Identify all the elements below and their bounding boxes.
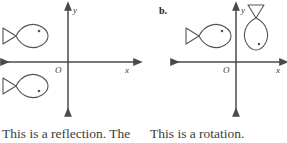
origin-label: O <box>223 65 230 75</box>
panel-reflection: y x O <box>0 0 143 118</box>
fish-eye-dot <box>38 90 41 93</box>
fish-body <box>244 18 267 50</box>
fish-body <box>199 24 231 47</box>
coordinate-plane-reflection: y x O <box>0 0 143 118</box>
coordinate-plane-rotation: y x O <box>144 0 287 118</box>
fish-tail <box>186 28 199 44</box>
fish-body <box>16 74 48 97</box>
fish-tail <box>3 28 16 44</box>
fish-tail <box>3 78 16 94</box>
fish-eye-dot <box>258 43 261 46</box>
fish-tail <box>248 5 264 18</box>
caption-reflection: This is a reflection. The <box>2 127 130 142</box>
fish-preimage <box>3 24 48 47</box>
fish-eye-dot <box>38 30 41 33</box>
part-label-b: b. <box>159 6 167 16</box>
x-axis-label: x <box>124 65 129 75</box>
origin-label: O <box>55 65 62 75</box>
figure-container: y x O <box>0 0 287 143</box>
caption-rotation: This is a rotation. <box>150 127 245 142</box>
fish-body <box>16 24 48 47</box>
fish-image <box>3 74 48 97</box>
x-axis-label: x <box>275 65 280 75</box>
y-axis-label: y <box>240 5 245 15</box>
panel-rotation: y x O <box>144 0 287 118</box>
y-axis-label: y <box>72 5 77 15</box>
fish-eye-dot <box>221 30 224 33</box>
fish-preimage <box>186 24 231 47</box>
fish-image <box>244 5 267 50</box>
